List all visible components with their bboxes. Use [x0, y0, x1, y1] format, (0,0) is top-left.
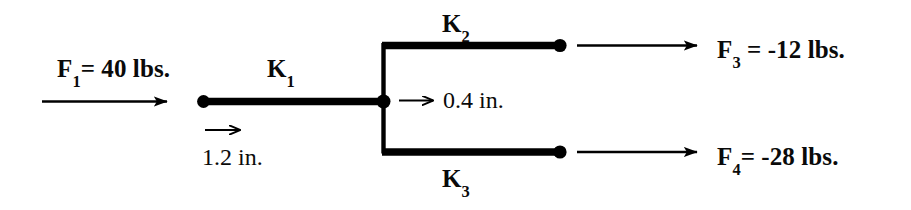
spring-2-label: K2 — [442, 11, 470, 36]
force-3-value-text: = -12 lbs. — [741, 36, 845, 63]
displacement-1-label: 1.2 in. — [202, 145, 263, 169]
spring-3-symbol: K — [442, 165, 462, 192]
free-body-diagram: F1= 40 lbs. K1 K2 K3 F3 = -12 lbs. F4= -… — [0, 0, 911, 210]
force-4-value-text: = -28 lbs. — [741, 143, 839, 170]
spring-2-symbol: K — [442, 10, 462, 37]
displacement-2-label: 0.4 in. — [443, 88, 504, 112]
force-4-subscript: 4 — [732, 160, 740, 179]
spring-1-subscript: 1 — [287, 72, 295, 91]
node-junction — [377, 95, 391, 109]
force-1-subscript: 1 — [72, 72, 80, 91]
spring-3-label: K3 — [442, 166, 470, 191]
force-1-symbol: F — [57, 55, 72, 82]
spring-2-subscript: 2 — [462, 27, 470, 46]
force-4-symbol: F — [717, 143, 732, 170]
force-1-value-text: = 40 lbs. — [81, 55, 170, 82]
force-3-label: F3 = -12 lbs. — [717, 37, 845, 62]
force-3-subscript: 3 — [732, 53, 740, 72]
node-lower-right — [553, 145, 566, 158]
node-upper-right — [553, 39, 566, 52]
node-left — [197, 95, 210, 108]
force-1-label: F1= 40 lbs. — [57, 56, 170, 81]
force-4-label: F4= -28 lbs. — [717, 144, 839, 169]
spring-1-symbol: K — [267, 55, 287, 82]
force-3-symbol: F — [717, 36, 732, 63]
spring-3-subscript: 3 — [462, 182, 470, 201]
spring-1-label: K1 — [267, 56, 295, 81]
